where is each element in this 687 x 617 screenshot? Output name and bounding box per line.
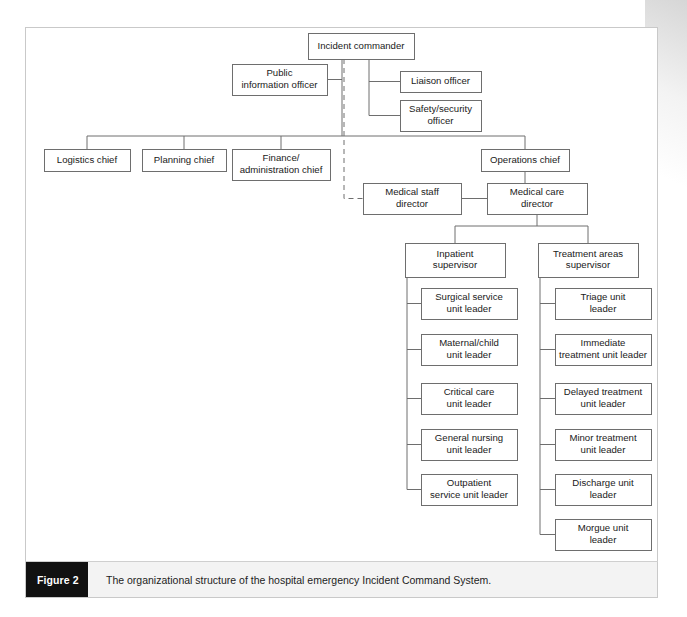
figure-number-tab: Figure 2 [26, 562, 88, 597]
org-node-treatment-areas-supervisor: Treatment areassupervisor [539, 244, 639, 278]
node-label: treatment unit leader [559, 349, 648, 360]
org-node-immediate-treatment-unit-leader: Immediatetreatment unit leader [556, 335, 652, 366]
node-label: Inpatient [437, 248, 474, 259]
node-label: Medical care [510, 186, 564, 197]
node-label: supervisor [433, 259, 478, 270]
node-label: unit leader [447, 349, 493, 360]
org-node-minor-treatment-unit-leader: Minor treatmentunit leader [556, 430, 652, 461]
connector [344, 59, 363, 199]
node-label: Finance/ [263, 152, 300, 163]
org-node-logistics-chief: Logistics chief [45, 150, 131, 172]
org-node-planning-chief: Planning chief [143, 150, 227, 172]
org-node-public-information-officer: Publicinformation officer [233, 65, 328, 96]
org-node-liaison-officer: Liaison officer [401, 72, 482, 93]
node-label: service unit leader [430, 489, 509, 500]
node-label: Logistics chief [57, 154, 118, 165]
node-label: Minor treatment [569, 432, 637, 443]
node-label: leader [590, 534, 617, 545]
node-label: Liaison officer [411, 75, 471, 86]
node-label: Morgue unit [578, 522, 629, 533]
node-label: Incident commander [318, 40, 406, 51]
node-label: Treatment areas [553, 248, 623, 259]
node-label: Outpatient [447, 477, 492, 488]
node-label: Operations chief [490, 154, 560, 165]
node-label: information officer [241, 79, 318, 90]
org-node-surgical-service-unit-leader: Surgical serviceunit leader [422, 289, 518, 320]
node-label: director [396, 198, 429, 209]
org-node-maternal-child-unit-leader: Maternal/childunit leader [422, 335, 518, 366]
node-label: Critical care [444, 386, 495, 397]
node-label: administration chief [240, 164, 323, 175]
org-chart: Incident commanderPublicinformation offi… [25, 27, 658, 562]
org-node-triage-unit-leader: Triage unitleader [556, 289, 652, 320]
node-label: supervisor [566, 259, 611, 270]
node-label: unit leader [447, 444, 493, 455]
org-node-delayed-treatment-unit-leader: Delayed treatmentunit leader [556, 384, 652, 415]
org-node-discharge-unit-leader: Discharge unitleader [556, 475, 652, 506]
node-label: unit leader [581, 398, 627, 409]
node-label: director [521, 198, 554, 209]
node-label: Immediate [581, 337, 626, 348]
org-node-critical-care-unit-leader: Critical careunit leader [422, 384, 518, 415]
org-node-medical-care-director: Medical caredirector [488, 184, 588, 215]
node-label: Maternal/child [439, 337, 499, 348]
node-label: Surgical service [435, 291, 503, 302]
org-chart-svg: Incident commanderPublicinformation offi… [25, 27, 658, 562]
node-label: leader [590, 303, 617, 314]
figure-caption-bar: Figure 2 The organizational structure of… [25, 562, 658, 598]
node-label: leader [590, 489, 617, 500]
org-node-safety-security-officer: Safety/securityofficer [401, 101, 482, 132]
node-label: Medical staff [385, 186, 439, 197]
org-node-medical-staff-director: Medical staffdirector [364, 184, 462, 215]
node-label: unit leader [447, 303, 493, 314]
org-node-morgue-unit-leader: Morgue unitleader [556, 520, 652, 551]
org-node-outpatient-service-unit-leader: Outpatientservice unit leader [422, 475, 518, 506]
org-chart-nodes: Incident commanderPublicinformation offi… [45, 34, 652, 551]
node-label: Delayed treatment [564, 386, 643, 397]
scanned-page: Incident commanderPublicinformation offi… [0, 0, 687, 617]
node-label: unit leader [581, 444, 627, 455]
org-node-general-nursing-unit-leader: General nursingunit leader [422, 430, 518, 461]
node-label: General nursing [435, 432, 503, 443]
node-label: Safety/security [409, 103, 472, 114]
node-label: officer [428, 115, 455, 126]
org-node-operations-chief: Operations chief [482, 150, 570, 172]
node-label: unit leader [447, 398, 493, 409]
node-label: Discharge unit [572, 477, 634, 488]
org-node-incident-commander: Incident commander [309, 34, 415, 60]
node-label: Triage unit [581, 291, 626, 302]
node-label: Public [266, 67, 292, 78]
node-label: Planning chief [154, 154, 215, 165]
org-node-inpatient-supervisor: Inpatientsupervisor [406, 244, 506, 278]
org-node-finance-administration-chief: Finance/administration chief [233, 150, 331, 181]
figure-caption-text: The organizational structure of the hosp… [88, 562, 657, 597]
